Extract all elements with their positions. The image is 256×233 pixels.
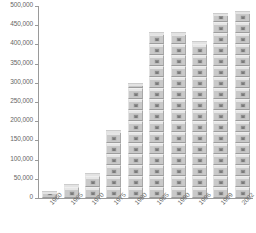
crate-center-dot-icon (178, 182, 180, 184)
y-axis-tick: 50,000 (0, 179, 38, 180)
bar (213, 13, 228, 198)
crate-unit-icon (171, 44, 186, 55)
crate-center-dot-icon (220, 83, 222, 85)
crate-center-dot-icon (199, 105, 201, 107)
crate-center-dot-icon (156, 83, 158, 85)
crate-center-dot-icon (135, 182, 137, 184)
crate-unit-icon (192, 165, 207, 176)
crate-unit-icon (128, 132, 143, 143)
bar (235, 11, 250, 198)
crate-center-dot-icon (135, 149, 137, 151)
x-axis-label-slot: 1985 (146, 199, 167, 233)
crate-center-dot-icon (156, 72, 158, 74)
crate-unit-icon (149, 55, 164, 66)
crate-center-dot-icon (156, 193, 158, 195)
y-axis-tick-label: 500,000 (10, 1, 33, 9)
crate-center-dot-icon (220, 193, 222, 195)
crate-unit-icon (192, 99, 207, 110)
crate-unit-icon (213, 132, 228, 143)
crate-unit-icon (128, 99, 143, 110)
crate-center-dot-icon (178, 50, 180, 52)
y-axis-tick-label: 0 (29, 193, 33, 201)
crate-unit-icon (213, 88, 228, 99)
crate-center-dot-icon (220, 171, 222, 173)
crate-unit-icon (192, 77, 207, 88)
crate-center-dot-icon (113, 171, 115, 173)
crate-unit-icon (149, 176, 164, 187)
y-axis-tick: 450,000 (0, 25, 38, 26)
crate-center-dot-icon (178, 105, 180, 107)
crate-center-dot-icon (135, 116, 137, 118)
bar-slot (103, 130, 124, 198)
y-axis-tick-label: 350,000 (10, 59, 33, 67)
crate-center-dot-icon (242, 39, 244, 41)
crate-center-dot-icon (199, 50, 201, 52)
y-axis-tick-mark (35, 6, 38, 7)
crate-unit-icon (128, 176, 143, 187)
crate-unit-icon (213, 99, 228, 110)
crate-center-dot-icon (242, 61, 244, 63)
crate-unit-icon (235, 154, 250, 165)
bar-slot (146, 32, 167, 198)
crate-center-dot-icon (92, 193, 94, 195)
crate-center-dot-icon (242, 83, 244, 85)
crate-center-dot-icon (156, 105, 158, 107)
crate-unit-icon (128, 165, 143, 176)
y-axis-tick-label: 150,000 (10, 135, 33, 143)
crate-unit-icon (235, 176, 250, 187)
y-axis-tick-mark (35, 140, 38, 141)
crate-center-dot-icon (113, 149, 115, 151)
bar-slot (168, 32, 189, 198)
crate-unit-icon (235, 22, 250, 33)
crate-unit-icon (149, 66, 164, 77)
crate-unit-icon (213, 110, 228, 121)
crate-unit-icon (213, 143, 228, 154)
crate-unit-icon (235, 99, 250, 110)
crate-unit-icon (192, 121, 207, 132)
crate-unit-icon (192, 132, 207, 143)
crate-unit-icon (171, 77, 186, 88)
crate-unit-icon (106, 165, 121, 176)
bar-top-face (106, 130, 121, 133)
y-axis-tick-label: 200,000 (10, 116, 33, 124)
crate-unit-icon (149, 132, 164, 143)
y-axis-tick: 400,000 (0, 44, 38, 45)
crate-center-dot-icon (178, 160, 180, 162)
bar-top-face (42, 191, 57, 194)
crate-center-dot-icon (242, 17, 244, 19)
bar-chart: 500,000450,000400,000350,000300,000250,0… (0, 0, 256, 233)
y-axis-tick-mark (35, 25, 38, 26)
crate-unit-icon (106, 154, 121, 165)
crate-center-dot-icon (220, 160, 222, 162)
crate-unit-icon (235, 110, 250, 121)
crate-center-dot-icon (220, 138, 222, 140)
y-axis-tick: 500,000 (0, 6, 38, 7)
crate-center-dot-icon (199, 127, 201, 129)
crate-unit-icon (235, 44, 250, 55)
crate-unit-icon (128, 121, 143, 132)
crate-center-dot-icon (220, 182, 222, 184)
crate-center-dot-icon (242, 127, 244, 129)
bar (192, 41, 207, 198)
crate-unit-icon (213, 165, 228, 176)
crate-unit-icon (192, 55, 207, 66)
crate-unit-icon (171, 143, 186, 154)
y-axis-tick-mark (35, 102, 38, 103)
crate-unit-icon (192, 143, 207, 154)
crate-unit-icon (213, 22, 228, 33)
crate-unit-icon (128, 143, 143, 154)
bar (128, 83, 143, 198)
crate-unit-icon (192, 110, 207, 121)
y-axis-tick: 300,000 (0, 83, 38, 84)
crate-center-dot-icon (242, 105, 244, 107)
bar (106, 130, 121, 198)
crate-center-dot-icon (178, 149, 180, 151)
crate-center-dot-icon (220, 17, 222, 19)
x-axis-label-slot: 1990 (168, 199, 189, 233)
crate-center-dot-icon (242, 138, 244, 140)
crate-unit-icon (171, 154, 186, 165)
y-axis-tick-mark (35, 83, 38, 84)
crate-unit-icon (149, 110, 164, 121)
x-axis-label-slot: 1975 (103, 199, 124, 233)
crate-unit-icon (235, 143, 250, 154)
